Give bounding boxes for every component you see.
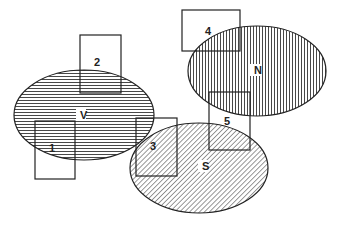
rectangle-label-2: 2 bbox=[94, 56, 100, 68]
ellipse-label-n: N bbox=[254, 64, 262, 76]
rectangle-label-5: 5 bbox=[224, 115, 230, 127]
rectangle-label-4: 4 bbox=[205, 25, 212, 37]
ellipse-group bbox=[14, 26, 326, 213]
venn-rectangle-diagram: VNS12345 bbox=[0, 0, 339, 225]
rectangle-label-1: 1 bbox=[49, 142, 55, 154]
ellipse-label-s: S bbox=[202, 160, 209, 172]
ellipse-label-v: V bbox=[80, 109, 88, 121]
rectangle-label-3: 3 bbox=[150, 140, 156, 152]
